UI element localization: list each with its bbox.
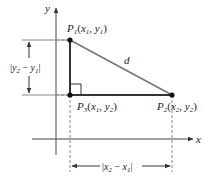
point-p1-label: P1(x1, y1)	[66, 22, 107, 36]
x-axis-label: x	[195, 133, 201, 145]
y-axis-label: y	[44, 2, 50, 14]
vertical-distance-label: |y2 − y1|	[10, 62, 41, 75]
point-p1	[67, 37, 72, 42]
hypotenuse	[70, 40, 172, 95]
hypotenuse-label: d	[124, 54, 130, 66]
point-p2-label: P2(x2, y2)	[156, 100, 197, 114]
point-p3	[67, 92, 72, 97]
distance-diagram: y x |y2 − y1| |x2 − x1| d P1(x1, y1) P3(…	[0, 0, 203, 181]
horizontal-distance-label: |x2 − x1|	[102, 161, 133, 174]
point-p2	[169, 92, 174, 97]
point-p3-label: P3(x1, y2)	[76, 100, 117, 114]
